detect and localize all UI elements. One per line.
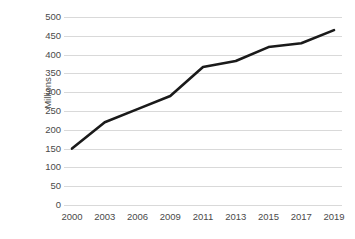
- x-axis-tick-label: 2015: [252, 211, 286, 223]
- series-line: [64, 17, 342, 205]
- y-axis-tick-label: 50: [28, 181, 61, 191]
- x-axis-tick-label: 2017: [284, 211, 318, 223]
- line-chart: Millions 050100150200250300350400450500 …: [0, 0, 355, 239]
- x-axis-tick-label: 2006: [121, 211, 155, 223]
- x-axis-tick-label: 2003: [88, 211, 122, 223]
- y-axis-tick-label: 350: [28, 68, 61, 78]
- series-polyline: [72, 30, 334, 148]
- y-axis-tick-label: 250: [28, 106, 61, 116]
- y-axis-tick-label: 450: [28, 31, 61, 41]
- y-axis-tick-label: 400: [28, 50, 61, 60]
- y-axis-tick-labels: 050100150200250300350400450500: [28, 11, 61, 211]
- gridline: [64, 205, 342, 206]
- y-axis-tick-label: 150: [28, 144, 61, 154]
- y-axis-tick-label: 0: [28, 200, 61, 210]
- x-axis-tick-label: 2013: [219, 211, 253, 223]
- y-axis-tick-label: 100: [28, 162, 61, 172]
- x-axis-tick-labels: 200020032006200920112013201520172019: [64, 211, 349, 227]
- x-axis-tick-label: 2019: [317, 211, 351, 223]
- plot-area: [64, 17, 342, 205]
- y-axis-tick-label: 200: [28, 125, 61, 135]
- y-axis-tick-label: 300: [28, 87, 61, 97]
- y-axis-tick-label: 500: [28, 12, 61, 22]
- x-axis-tick-label: 2000: [55, 211, 89, 223]
- x-axis-tick-label: 2011: [186, 211, 220, 223]
- x-axis-tick-label: 2009: [153, 211, 187, 223]
